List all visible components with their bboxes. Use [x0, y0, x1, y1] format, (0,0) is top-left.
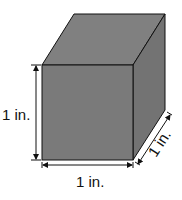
cube-front-face: [42, 65, 133, 160]
width-label: 1 in.: [76, 173, 104, 190]
height-label: 1 in.: [2, 106, 30, 123]
cube-diagram: 1 in. 1 in. 1 in.: [0, 0, 182, 200]
depth-tick-top: [167, 112, 172, 115]
